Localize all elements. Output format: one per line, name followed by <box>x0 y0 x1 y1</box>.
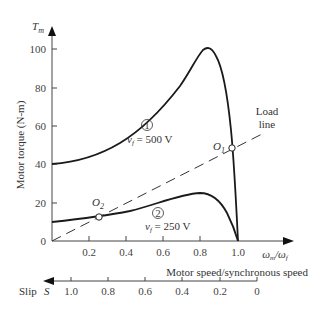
slip-tick-0.8: 0.8 <box>101 285 115 297</box>
operating-point-o1 <box>229 145 235 151</box>
curve-1-number: 1 <box>144 119 150 131</box>
slip-tick-0: 0 <box>254 285 260 297</box>
o1-label: O1 <box>213 140 225 155</box>
slip-tick-0.2: 0.2 <box>213 285 227 297</box>
slip-tick-1.0: 1.0 <box>64 285 78 297</box>
curve-2-number: 2 <box>155 207 161 219</box>
y-tick-100: 100 <box>30 43 47 55</box>
load-line-label-1: Load <box>256 105 279 117</box>
slip-tick-0.4: 0.4 <box>175 285 189 297</box>
slip-tick-0.6: 0.6 <box>138 285 152 297</box>
y-tick-40: 40 <box>35 158 47 170</box>
x-tick-0.2: 0.2 <box>82 246 96 258</box>
o2-label: O2 <box>92 196 104 211</box>
y-axis-title: Motor torque (N-m) <box>14 100 27 189</box>
x-tick-0.8: 0.8 <box>193 246 207 258</box>
load-line-label-2: line <box>259 118 276 130</box>
x-tick-0.6: 0.6 <box>156 246 170 258</box>
x-tick-1.0: 1.0 <box>231 246 245 258</box>
operating-point-o2 <box>96 214 102 220</box>
x-axis: 0.2 0.4 0.6 0.8 1.0 ωm/ωf <box>52 236 294 262</box>
y-axis: 0 20 40 60 80 100 Tm Motor torque (N-m) <box>14 20 57 247</box>
y-tick-0: 0 <box>41 235 47 247</box>
y-tick-80: 80 <box>35 82 47 94</box>
curve-2-label: vf = 250 V <box>145 220 191 234</box>
y-axis-symbol: Tm <box>32 20 44 35</box>
slip-axis-title: Motor speed/synchronous speed <box>166 266 308 278</box>
curve-250v <box>52 193 238 241</box>
y-tick-20: 20 <box>35 197 47 209</box>
torque-speed-chart: 0 20 40 60 80 100 Tm Motor torque (N-m) … <box>0 0 322 317</box>
slip-axis-arrow-icon <box>43 277 54 285</box>
x-axis-symbol: ωm/ωf <box>262 248 289 262</box>
x-tick-0.4: 0.4 <box>119 246 133 258</box>
y-tick-60: 60 <box>35 120 47 132</box>
slip-symbol: S <box>44 285 50 297</box>
slip-axis: Motor speed/synchronous speed Slip S 1.0… <box>19 266 308 297</box>
y-axis-arrow-icon <box>48 26 56 36</box>
x-axis-arrow-icon <box>283 237 294 245</box>
slip-label: Slip <box>19 285 37 297</box>
curve-1-label: vf = 500 V <box>127 133 173 147</box>
